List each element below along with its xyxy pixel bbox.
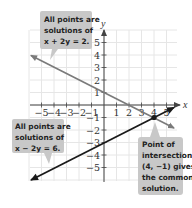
callout-intersection-text-4: the common (142, 173, 192, 182)
y-tick-label: −2 (86, 125, 100, 136)
x-tick-label: 2 (126, 107, 132, 118)
intersection-point (151, 115, 156, 120)
y-tick-label: −1 (86, 112, 100, 123)
callout-line2-text-2: solutions of (15, 133, 65, 142)
callout-intersection-text-5: solution. (142, 184, 179, 193)
callout-line1-text-3: x + 2y = 2. (44, 37, 90, 46)
callout-intersection-text-1: Point of (142, 140, 175, 149)
y-tick-label: −5 (86, 162, 100, 173)
y-tick-label: 4 (94, 50, 100, 61)
callout-intersection-text-3: (4, −1) gives (142, 162, 192, 171)
coordinate-graph: x y −5−4−3−2−11234554321−1−2−3−4−5 All p… (0, 0, 192, 208)
y-tick-label: 2 (94, 75, 100, 86)
callout-line1-text-2: solutions of (44, 26, 94, 35)
callout-line1: All points are solutions of x + 2y = 2. (40, 11, 100, 60)
callout-line1-text-1: All points are (44, 15, 100, 24)
x-axis-label: x (182, 99, 188, 110)
callout-line2-text-3: x − 2y = 6. (15, 144, 61, 153)
callout-line2-text-1: All points are (15, 122, 71, 131)
callout-intersection: Point of intersection (4, −1) gives the … (138, 122, 192, 195)
callout-intersection-text-2: intersection (142, 151, 192, 160)
y-tick-label: 3 (94, 62, 100, 73)
y-tick-label: 5 (94, 37, 100, 48)
y-axis-label: y (100, 18, 106, 29)
x-tick-label: 1 (113, 107, 119, 118)
